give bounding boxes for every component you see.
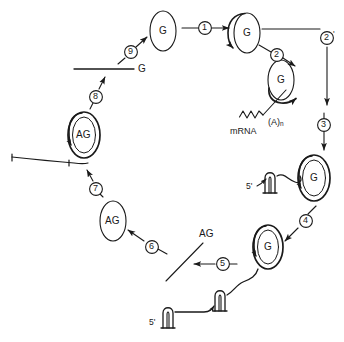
node-label-g-top: G xyxy=(159,26,167,36)
diagram-vector-layer xyxy=(0,0,344,342)
node-label-ag-step7: AG xyxy=(76,130,90,140)
five-prime-label-right: 5' xyxy=(246,182,252,191)
diagram-canvas: G G G G G AG AG 1 2 2 ' 3 4 5 6 7 8 9 G … xyxy=(0,0,344,342)
mrna-strand-schematic xyxy=(240,90,287,118)
step-label-2: 2 xyxy=(274,50,279,59)
mrna-label: mRNA xyxy=(230,127,257,136)
step-label-3: 3 xyxy=(321,120,326,129)
step-label-2-prime: 2 xyxy=(324,33,329,42)
mrna-hairpin-bottom xyxy=(161,269,258,328)
step-label-9: 9 xyxy=(128,47,133,56)
node-label-g-step2: G xyxy=(277,75,285,85)
poly-a-label: (A)n xyxy=(268,118,284,127)
step-label-7: 7 xyxy=(93,184,98,193)
step-label-8: 8 xyxy=(93,92,98,101)
node-label-g-step1: G xyxy=(243,28,251,38)
node-label-ag-step6: AG xyxy=(105,216,119,226)
step-label-4: 4 xyxy=(303,216,308,225)
five-prime-label-bottom: 5' xyxy=(149,318,155,327)
ag-product-line xyxy=(166,243,203,281)
node-label-g-step3: G xyxy=(310,173,318,183)
mrna-hairpin-right xyxy=(257,173,301,193)
ag-line-label: AG xyxy=(199,229,213,239)
node-label-g-step4: G xyxy=(264,242,272,252)
step-label-5: 5 xyxy=(220,259,225,268)
step-label-2-prime-mark: ' xyxy=(333,30,335,39)
g-line-label: G xyxy=(138,64,146,74)
step-label-6: 6 xyxy=(149,242,154,251)
step-label-1: 1 xyxy=(202,23,207,32)
